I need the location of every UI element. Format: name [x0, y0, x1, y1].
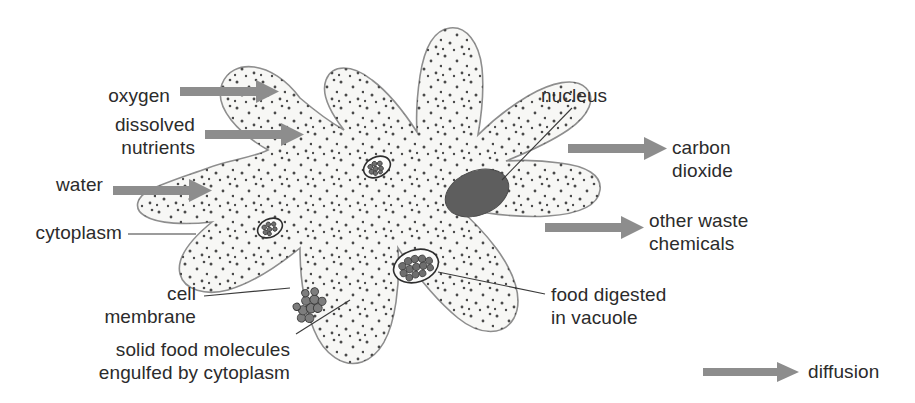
label-water: water	[0, 173, 103, 196]
label-solid-food-line1: solid food molecules	[0, 338, 290, 361]
label-carbon-dioxide-line2: dioxide	[672, 159, 733, 182]
label-food-digested-line2: in vacuole	[551, 306, 638, 329]
label-cell-membrane-line1: cell	[0, 282, 196, 305]
diagram-canvas: oxygen dissolved nutrients water cytopla…	[0, 0, 915, 403]
arrow-carbon-dioxide	[568, 137, 667, 160]
label-food-digested-line1: food digested	[551, 283, 666, 306]
arrow-other-waste	[545, 216, 644, 239]
label-cytoplasm: cytoplasm	[0, 221, 122, 244]
legend-label-diffusion: diffusion	[808, 360, 879, 383]
label-other-waste-line1: other waste	[649, 209, 748, 232]
label-cell-membrane-line2: membrane	[0, 305, 196, 328]
label-dissolved-nutrients-line2: nutrients	[10, 136, 195, 159]
label-solid-food-line2: engulfed by cytoplasm	[0, 361, 290, 384]
label-carbon-dioxide-line1: carbon	[672, 136, 731, 159]
label-dissolved-nutrients-line1: dissolved	[10, 113, 195, 136]
label-nucleus: nucleus	[541, 84, 607, 107]
label-oxygen: oxygen	[10, 84, 170, 107]
label-other-waste-line2: chemicals	[649, 232, 734, 255]
legend-arrow-icon	[703, 362, 799, 382]
